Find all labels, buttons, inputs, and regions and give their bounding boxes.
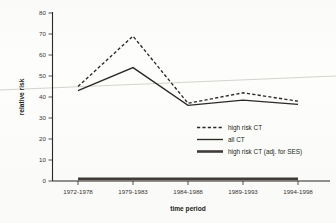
- x-tick-label-4: 1989-1993: [228, 188, 258, 195]
- legend-label-high-risk-ct: high risk CT: [228, 124, 262, 132]
- legend-label-high-risk-ct-adj-ses: high risk CT (adj. for SES): [228, 148, 302, 156]
- y-tick-label-40: 40: [39, 93, 46, 100]
- y-tick-label-10: 10: [39, 156, 46, 163]
- x-tick-label-2: 1979-1983: [118, 188, 148, 195]
- x-tick-label-3: 1984-1988: [173, 188, 203, 195]
- y-tick-label-30: 30: [39, 114, 46, 121]
- legend: high risk CT all CT high risk CT (adj. f…: [197, 124, 302, 156]
- y-tick-marks: [49, 13, 53, 181]
- y-tick-label-60: 60: [39, 51, 46, 58]
- y-tick-label-50: 50: [39, 72, 46, 79]
- scan-artifact-line: [0, 76, 336, 90]
- series-line-high-risk-ct: [78, 36, 298, 103]
- y-axis-title: relative risk: [18, 78, 25, 115]
- series-line-all-ct: [78, 68, 298, 106]
- line-chart: 80 70 60 50 40 30 20 10 0 1972-1978 1979…: [0, 0, 336, 223]
- x-axis-title: time period: [170, 205, 206, 213]
- x-tick-marks: [78, 181, 298, 185]
- y-tick-label-20: 20: [39, 135, 46, 142]
- x-tick-label-5: 1994-1998: [283, 188, 313, 195]
- x-tick-label-1: 1972-1978: [63, 188, 93, 195]
- y-tick-label-70: 70: [39, 30, 46, 37]
- legend-label-all-ct: all CT: [228, 136, 245, 143]
- chart-canvas: 80 70 60 50 40 30 20 10 0 1972-1978 1979…: [0, 0, 336, 223]
- y-tick-label-80: 80: [39, 9, 46, 16]
- y-tick-label-0: 0: [43, 177, 47, 184]
